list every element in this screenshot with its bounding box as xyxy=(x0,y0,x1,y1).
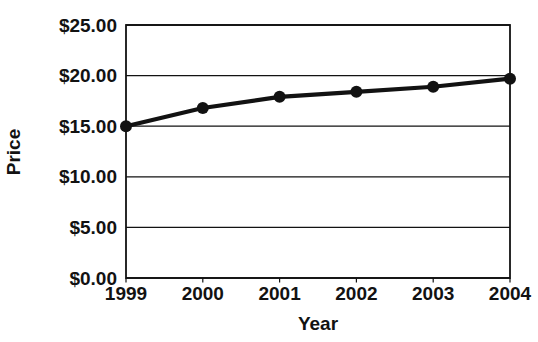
x-axis-tick-labels: 199920002001200220032004 xyxy=(105,278,532,304)
price-line-chart: $0.00$5.00$10.00$15.00$20.00$25.00 19992… xyxy=(0,0,538,342)
y-tick-label: $10.00 xyxy=(59,166,117,187)
y-tick-label: $20.00 xyxy=(59,65,117,86)
y-axis-tick-labels: $0.00$5.00$10.00$15.00$20.00$25.00 xyxy=(59,15,117,289)
price-series xyxy=(120,73,516,133)
x-tick-label: 2001 xyxy=(258,283,301,304)
data-point-2000 xyxy=(197,102,209,114)
x-tick-label: 2003 xyxy=(412,283,454,304)
chart-plot-area: $0.00$5.00$10.00$15.00$20.00$25.00 19992… xyxy=(0,0,538,342)
x-tick-label: 2000 xyxy=(182,283,224,304)
gridlines xyxy=(126,25,510,278)
price-series-line xyxy=(126,79,510,127)
data-point-2002 xyxy=(350,86,362,98)
x-tick-label: 1999 xyxy=(105,283,147,304)
x-tick-label: 2002 xyxy=(335,283,377,304)
x-tick-label: 2004 xyxy=(489,283,532,304)
plot-frame xyxy=(126,25,510,278)
y-tick-label: $5.00 xyxy=(69,217,117,238)
y-axis-title: Price xyxy=(3,129,24,175)
data-point-2004 xyxy=(504,73,516,85)
data-point-1999 xyxy=(120,120,132,132)
data-point-2001 xyxy=(274,91,286,103)
x-axis-title: Year xyxy=(298,313,339,334)
y-tick-label: $25.00 xyxy=(59,15,117,36)
y-tick-label: $15.00 xyxy=(59,116,117,137)
data-point-2003 xyxy=(427,81,439,93)
plot-border xyxy=(126,25,510,278)
